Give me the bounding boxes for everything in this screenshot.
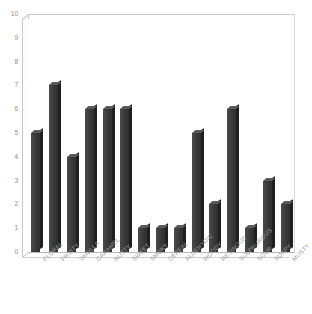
y-tick-label: 8 xyxy=(14,58,18,65)
bar xyxy=(103,109,112,252)
y-tick-label: 9 xyxy=(14,35,18,42)
bar-front-face xyxy=(120,109,129,252)
bar-front-face xyxy=(227,109,236,252)
bar-side-face xyxy=(129,104,132,249)
bar-front-face xyxy=(67,157,76,252)
bar xyxy=(49,85,58,252)
bar-side-face xyxy=(201,128,204,249)
bar-side-face xyxy=(290,200,293,249)
bar-side-face xyxy=(236,104,239,249)
bar-side-face xyxy=(112,104,115,249)
y-tick-label: 0 xyxy=(14,249,18,256)
bar-front-face xyxy=(85,109,94,252)
y-tick-label: 6 xyxy=(14,106,18,113)
bar xyxy=(263,181,272,252)
y-tick-label: 1 xyxy=(14,225,18,232)
bar xyxy=(85,109,94,252)
bar xyxy=(227,109,236,252)
bar-front-face xyxy=(192,133,201,252)
y-tick-label: 2 xyxy=(14,201,18,208)
x-axis-tick-labels: FLORALFRUITYVANILLACARAMELNUTTYSWEETSMOK… xyxy=(28,254,295,314)
y-tick-label: 7 xyxy=(14,82,18,89)
bar-series xyxy=(28,14,295,252)
y-tick-label: 4 xyxy=(14,154,18,161)
bar-front-face xyxy=(31,133,40,252)
y-tick-label: 5 xyxy=(14,130,18,137)
y-tick-label: 10 xyxy=(11,11,18,18)
bar-side-face xyxy=(272,176,275,249)
bar-chart: 012345678910 FLORALFRUITYVANILLACARAMELN… xyxy=(0,0,312,314)
bar-front-face xyxy=(263,181,272,252)
bar xyxy=(192,133,201,252)
bar xyxy=(67,157,76,252)
bar-side-face xyxy=(94,104,97,249)
bar-front-face xyxy=(103,109,112,252)
y-tick-label: 3 xyxy=(14,177,18,184)
bar-side-face xyxy=(76,152,79,249)
bar xyxy=(120,109,129,252)
bar-side-face xyxy=(40,128,43,249)
bar-front-face xyxy=(49,85,58,252)
y-axis-tick-labels: 012345678910 xyxy=(0,0,22,314)
y-axis-line xyxy=(22,19,23,257)
bar-side-face xyxy=(58,81,61,249)
bar xyxy=(31,133,40,252)
